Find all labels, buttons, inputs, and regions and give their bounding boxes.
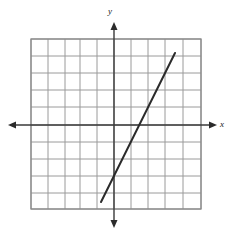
y-axis-label: y [108, 7, 112, 16]
graph-figure: y x [0, 0, 235, 240]
coordinate-plane-svg [0, 0, 235, 240]
x-axis [8, 122, 217, 129]
x-axis-arrow-left-icon [8, 122, 16, 129]
x-axis-label: x [220, 120, 224, 129]
y-axis-arrow-up-icon [111, 22, 118, 30]
grid-lines [31, 39, 201, 209]
plotted-line-series [101, 53, 175, 202]
y-axis-arrow-down-icon [111, 220, 118, 228]
x-axis-arrow-right-icon [209, 122, 217, 129]
grid-border [31, 39, 201, 209]
